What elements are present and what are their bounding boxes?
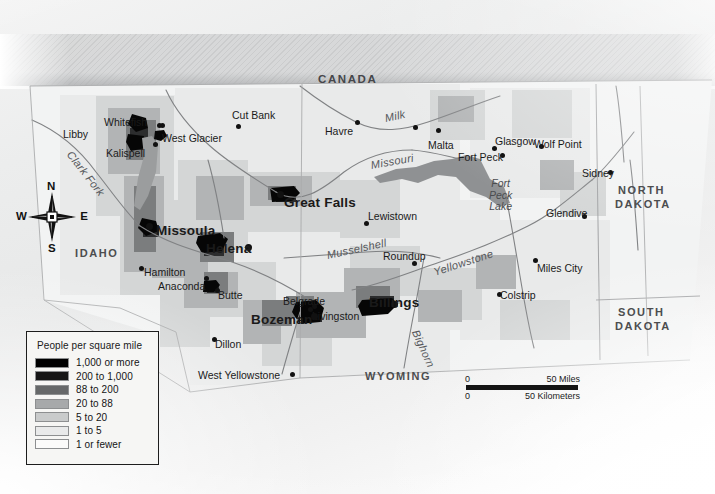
- city-marker: [146, 223, 153, 230]
- state-label-idaho: IDAHO: [75, 248, 118, 259]
- city-marker: [436, 128, 441, 133]
- city-label-bozeman: Bozeman: [251, 313, 312, 327]
- scale-bar-line: [466, 385, 578, 390]
- lake-label-fort-peck-lake: FortPeckLake: [489, 178, 512, 213]
- city-label-whitefish: Whitefish: [104, 117, 147, 128]
- city-label-dillon: Dillon: [215, 339, 241, 350]
- legend-swatch: [35, 358, 69, 368]
- state-label-dakota: DAKOTA: [615, 199, 671, 210]
- scale-miles-row: 0 50 Miles: [466, 374, 578, 384]
- legend-swatch: [35, 426, 69, 436]
- scale-km-row: 0 50 Kilometers: [466, 391, 578, 401]
- city-label-lewistown: Lewistown: [368, 211, 417, 222]
- lake-label-line: Lake: [489, 201, 512, 213]
- legend-swatch: [35, 412, 69, 422]
- legend-row: 5 to 20: [35, 410, 150, 424]
- legend-row: 1 or fewer: [35, 438, 150, 452]
- legend-label: 1,000 or more: [76, 357, 140, 368]
- legend-swatch: [35, 385, 69, 395]
- city-label-cut-bank: Cut Bank: [232, 110, 275, 121]
- compass-north-label: N: [47, 180, 55, 192]
- legend-row: 88 to 200: [35, 383, 150, 397]
- legend-swatch: [35, 371, 69, 381]
- city-label-hamilton: Hamilton: [144, 267, 185, 278]
- legend-row: 200 to 1,000: [35, 370, 150, 384]
- scale-bar: 0 50 Miles 0 50 Kilometers: [466, 374, 578, 401]
- city-label-glendive: Glendive: [546, 208, 587, 219]
- scale-km-zero: 0: [465, 391, 470, 401]
- compass-west-label: W: [16, 210, 27, 222]
- state-label-dakota: DAKOTA: [615, 321, 671, 332]
- city-marker: [153, 142, 158, 147]
- state-label-north: NORTH: [618, 185, 665, 196]
- compass-east-label: E: [80, 210, 88, 222]
- city-label-west-yellowstone: West Yellowstone: [198, 370, 280, 381]
- legend-label: 200 to 1,000: [76, 371, 133, 382]
- legend-label: 1 to 5: [76, 425, 102, 436]
- legend-row: 1,000 or more: [35, 356, 150, 370]
- scale-km-label: 50 Kilometers: [525, 391, 580, 401]
- scale-miles-zero: 0: [465, 374, 470, 384]
- city-label-wolf-point: Wolf Point: [534, 139, 582, 150]
- city-label-kalispell: Kalispell: [106, 148, 145, 159]
- city-label-anaconda: Anaconda: [158, 281, 205, 292]
- city-label-colstrip: Colstrip: [500, 290, 536, 301]
- legend-panel: People per square mile 1,000 or more200 …: [26, 331, 159, 465]
- legend-label: 20 to 88: [76, 398, 113, 409]
- city-label-malta: Malta: [428, 140, 454, 151]
- city-label-belgrade: Belgrade: [283, 296, 325, 307]
- legend-label: 1 or fewer: [76, 439, 121, 450]
- city-label-libby: Libby: [63, 129, 88, 140]
- legend-rows: 1,000 or more200 to 1,00088 to 20020 to …: [35, 356, 150, 451]
- state-label-south: SOUTH: [618, 307, 665, 318]
- legend-row: 20 to 88: [35, 397, 150, 411]
- city-label-sidney: Sidney: [582, 168, 614, 179]
- city-marker: [236, 124, 241, 129]
- city-label-butte: Butte: [218, 290, 243, 301]
- country-label-canada: CANADA: [318, 74, 377, 86]
- city-label-glasgow: Glasgow: [495, 136, 536, 147]
- city-label-missoula: Missoula: [156, 224, 215, 238]
- legend-swatch: [35, 439, 69, 449]
- legend-swatch: [35, 399, 69, 409]
- city-marker: [157, 123, 162, 128]
- legend-label: 5 to 20: [76, 412, 107, 423]
- city-marker: [355, 120, 360, 125]
- legend-title: People per square mile: [37, 340, 150, 351]
- city-marker: [413, 125, 418, 130]
- city-label-great-falls: Great Falls: [284, 196, 356, 210]
- city-label-roundup: Roundup: [383, 251, 426, 262]
- compass-south-label: S: [48, 242, 56, 254]
- lake-label-line: Fort: [489, 178, 512, 190]
- legend-row: 1 to 5: [35, 424, 150, 438]
- city-label-helena: Helena: [206, 242, 251, 256]
- city-label-livingston: Livingston: [312, 311, 359, 322]
- city-label-fort-peck: Fort Peck: [458, 152, 503, 163]
- city-label-miles-city: Miles City: [537, 263, 583, 274]
- state-label-wyoming: WYOMING: [365, 371, 431, 382]
- city-marker: [277, 191, 284, 198]
- scale-miles-label: 50 Miles: [546, 374, 580, 384]
- city-label-havre: Havre: [325, 126, 353, 137]
- compass-rose: N S W E: [16, 180, 88, 254]
- legend-label: 88 to 200: [76, 384, 119, 395]
- map-screenshot: N S W E CANADAIDAHONORTHDAKOTASOUTHDAKOT…: [0, 0, 715, 494]
- city-marker: [290, 372, 295, 377]
- city-label-billings: Billings: [369, 296, 419, 310]
- city-label-west-glacier: West Glacier: [162, 133, 222, 144]
